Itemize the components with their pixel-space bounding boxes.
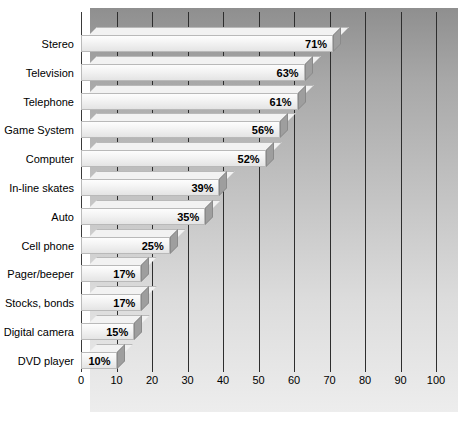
category-label: Telephone (23, 96, 74, 108)
bar-top-face (89, 171, 235, 179)
bar-group: 39% (81, 171, 227, 197)
bar-group: 25% (81, 229, 178, 255)
bar-value-label: 17% (81, 268, 135, 280)
x-tick-label: 40 (203, 374, 243, 386)
bar-group: 10% (81, 344, 125, 370)
bar-group: 61% (81, 85, 306, 111)
gridline-100 (436, 12, 437, 372)
bar-chart: 71%63%61%56%52%39%35%25%17%17%15%10% Ste… (0, 0, 469, 430)
bar-value-label: 10% (81, 355, 111, 367)
bar-group: 63% (81, 56, 313, 82)
bar-top-face (89, 27, 349, 35)
bar-value-label: 17% (81, 297, 135, 309)
bar-value-label: 61% (81, 96, 292, 108)
category-label: In-line skates (9, 182, 74, 194)
x-tick-label: 0 (61, 374, 101, 386)
bar-top-face (89, 113, 296, 121)
bar-value-label: 52% (81, 153, 260, 165)
bar-value-label: 35% (81, 211, 199, 223)
bar-value-label: 63% (81, 67, 299, 79)
category-label: Pager/beeper (7, 268, 74, 280)
x-tick-label: 10 (97, 374, 137, 386)
bar-value-label: 71% (81, 38, 327, 50)
bar-group: 15% (81, 315, 142, 341)
bar-top-face (89, 85, 314, 93)
bar-value-label: 25% (81, 240, 164, 252)
bar-value-label: 39% (81, 182, 213, 194)
bar-group: 35% (81, 200, 213, 226)
bar-group: 17% (81, 257, 149, 283)
bar-value-label: 15% (81, 326, 128, 338)
x-tick-label: 20 (132, 374, 172, 386)
x-tick-label: 60 (274, 374, 314, 386)
category-label: Auto (51, 211, 74, 223)
gridline-80 (365, 12, 366, 372)
bar-top-face (89, 56, 321, 64)
category-label: Digital camera (4, 326, 74, 338)
x-tick-label: 100 (416, 374, 456, 386)
x-tick-label: 30 (168, 374, 208, 386)
category-label: Cell phone (21, 240, 74, 252)
category-label: Stocks, bonds (5, 297, 74, 309)
bar-group: 52% (81, 142, 274, 168)
category-label: DVD player (18, 355, 74, 367)
category-label: Stereo (42, 38, 74, 50)
category-label: Computer (26, 153, 74, 165)
bar-group: 71% (81, 27, 341, 53)
bar-top-face (89, 200, 221, 208)
gridline-70 (330, 12, 331, 372)
bar-group: 17% (81, 286, 149, 312)
x-tick-label: 80 (345, 374, 385, 386)
gridline-90 (401, 12, 402, 372)
bar-group: 56% (81, 113, 288, 139)
category-label: Game System (4, 124, 74, 136)
x-tick-label: 70 (310, 374, 350, 386)
x-tick-label: 90 (381, 374, 421, 386)
x-tick-label: 50 (239, 374, 279, 386)
bar-value-label: 56% (81, 124, 274, 136)
bar-top-face (89, 142, 282, 150)
category-label: Television (26, 67, 74, 79)
